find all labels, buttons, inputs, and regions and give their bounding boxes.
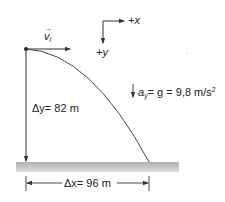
acceleration-label: ay= g = 9,8 m/s2 [138,86,216,99]
projectile-diagram [0,0,225,202]
y-axis-label: +y [96,47,108,58]
ground-bar [16,162,179,172]
speck [187,53,188,54]
axis-indicator [103,21,124,43]
delta-x-label: Δx= 96 m [64,178,111,189]
x-axis-label: +x [128,15,140,26]
vector-arrow-mark: → [44,25,52,33]
delta-y-label: Δy= 82 m [32,103,79,114]
initial-velocity-label: → vi [44,31,51,43]
